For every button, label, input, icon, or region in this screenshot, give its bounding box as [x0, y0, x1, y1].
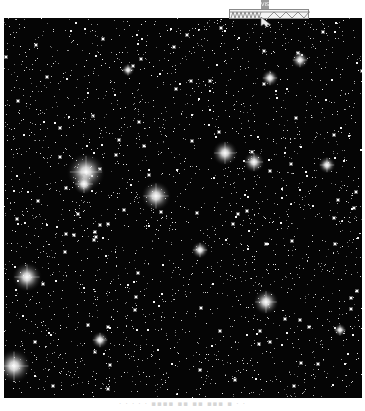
- pointer-icon: [259, 17, 273, 27]
- star-field-image: [4, 18, 362, 398]
- instrument-overlay: VIS: [229, 0, 309, 26]
- image-caption: · · · · · ▪▪▪▪ ▪▪ ▪▪ ▪▪▪ ▪ · ·: [0, 400, 365, 411]
- overlay-label: VIS: [261, 0, 269, 9]
- star-field-canvas: [4, 18, 362, 398]
